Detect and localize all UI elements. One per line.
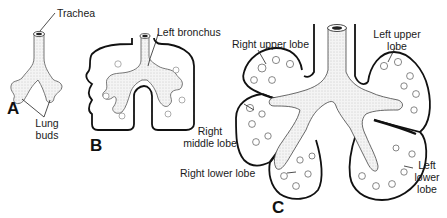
panel-a-drawing: [11, 31, 62, 103]
panel-label-b: B: [90, 137, 102, 154]
panel-label-a: A: [7, 100, 19, 117]
label-left-upper-lobe-line1: Left upper: [372, 29, 422, 40]
label-right-upper-lobe: Right upper lobe: [232, 39, 309, 50]
panel-b-leader: [148, 34, 158, 66]
label-right-lower-lobe: Right lower lobe: [180, 168, 255, 179]
label-left-lower-lobe-line1: Left: [412, 160, 442, 171]
label-lung-buds-line2: buds: [34, 130, 60, 141]
label-right-middle-lobe-line1: Right: [180, 126, 240, 137]
label-trachea: Trachea: [57, 8, 95, 19]
label-left-lower-lobe-line2: lower: [412, 172, 442, 183]
label-left-bronchus: Left bronchus: [157, 27, 221, 38]
panel-label-c: C: [272, 199, 284, 216]
label-left-upper-lobe-line2: lobe: [372, 41, 422, 52]
label-left-lower-lobe-line3: lobe: [412, 184, 442, 195]
label-lung-buds-line1: Lung: [34, 118, 60, 129]
panel-b-drawing: [86, 34, 194, 130]
label-right-middle-lobe-line2: middle lobe: [180, 138, 240, 149]
lung-development-diagram: Trachea Lung buds Left bronchus Right up…: [0, 0, 447, 218]
